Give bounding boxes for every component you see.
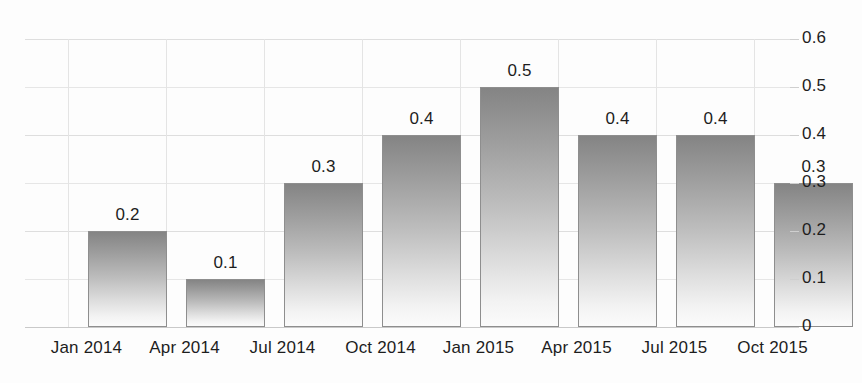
y-axis-tick-label: 0.1 <box>802 268 826 288</box>
x-axis-tick-label: Jan 2014 <box>37 338 137 358</box>
bar[interactable] <box>578 135 657 327</box>
y-axis-tick-mark <box>790 183 799 184</box>
x-axis-tick-label: Oct 2014 <box>331 338 431 358</box>
x-axis-tick-label: Jul 2014 <box>233 338 333 358</box>
x-axis-tick-label: Apr 2014 <box>135 338 235 358</box>
x-axis-tick-label: Apr 2015 <box>527 338 627 358</box>
y-axis-tick-mark <box>790 279 799 280</box>
y-axis-tick-mark <box>790 39 799 40</box>
y-axis-tick-mark <box>790 327 799 328</box>
y-axis-tick-label: 0.5 <box>802 76 826 96</box>
bar[interactable] <box>480 87 559 327</box>
y-axis-tick-label: 0.2 <box>802 220 826 240</box>
bar[interactable] <box>186 279 265 327</box>
bar-chart: 0.20.10.30.40.50.40.40.3 0.60.50.40.30.2… <box>0 0 862 383</box>
bar[interactable] <box>88 231 167 327</box>
bar-value-label: 0.2 <box>88 205 167 225</box>
bar-value-label: 0.4 <box>676 109 755 129</box>
y-axis-tick-label: 0.3 <box>802 172 826 192</box>
x-axis-tick-label: Jul 2015 <box>625 338 725 358</box>
y-axis-tick-label: 0.4 <box>802 124 826 144</box>
bar[interactable] <box>774 183 853 327</box>
x-axis-tick-label: Jan 2015 <box>429 338 529 358</box>
y-axis-tick-mark <box>790 87 799 88</box>
paper-edge <box>0 367 862 383</box>
bars-layer: 0.20.10.30.40.50.40.40.3 <box>0 0 862 383</box>
y-axis-tick-label: 0 <box>802 316 812 336</box>
y-axis-tick-mark <box>790 231 799 232</box>
bar[interactable] <box>382 135 461 327</box>
x-axis-tick-label: Oct 2015 <box>723 338 823 358</box>
bar-value-label: 0.3 <box>284 157 363 177</box>
y-axis-tick-mark <box>790 135 799 136</box>
bar-value-label: 0.1 <box>186 253 265 273</box>
bar[interactable] <box>676 135 755 327</box>
bar-value-label: 0.4 <box>578 109 657 129</box>
bar-value-label: 0.4 <box>382 109 461 129</box>
y-axis-tick-label: 0.6 <box>802 28 826 48</box>
bar-value-label: 0.5 <box>480 61 559 81</box>
bar[interactable] <box>284 183 363 327</box>
